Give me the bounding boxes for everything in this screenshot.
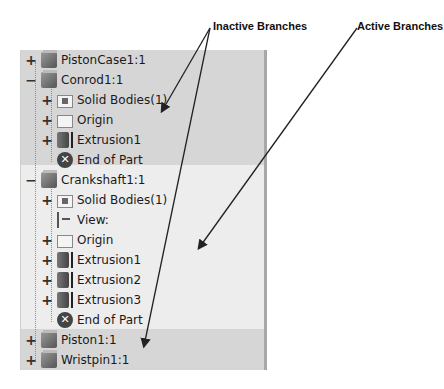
extrusion-icon: [57, 272, 69, 288]
tree-item-solid-bodies[interactable]: + Solid Bodies(1): [41, 190, 167, 210]
part-cube-icon: [41, 352, 57, 368]
tree-item-label: Crankshaft1:1: [61, 173, 145, 187]
tree-item-pistoncase[interactable]: + PistonCase1:1: [25, 50, 146, 70]
extrusion-icon: [57, 252, 69, 268]
expand-icon[interactable]: +: [25, 352, 37, 368]
tree-item-extrusion3[interactable]: + Extrusion3: [41, 290, 141, 310]
tree-item-extrusion1[interactable]: + Extrusion1: [41, 250, 141, 270]
tree-item-conrod[interactable]: − Conrod1:1: [25, 70, 123, 90]
inactive-branches-label: Inactive Branches: [213, 20, 307, 32]
tree-item-label: End of Part: [77, 313, 143, 327]
expand-icon[interactable]: +: [25, 52, 37, 68]
expand-icon[interactable]: +: [25, 332, 37, 348]
expand-icon[interactable]: +: [41, 292, 53, 308]
tree-item-piston[interactable]: + Piston1:1: [25, 330, 117, 350]
end-of-part-icon: ✕: [57, 152, 73, 168]
collapse-icon[interactable]: −: [25, 172, 37, 188]
view-icon: [57, 212, 73, 228]
expand-icon[interactable]: +: [41, 192, 53, 208]
extrusion-icon: [57, 292, 69, 308]
tree-item-label: Solid Bodies(1): [77, 193, 167, 207]
tree-item-label: Piston1:1: [61, 333, 117, 347]
tree-item-label: Extrusion1: [77, 133, 141, 147]
tree-item-label: Solid Bodies(1): [77, 93, 167, 107]
expand-icon[interactable]: +: [41, 232, 53, 248]
expand-icon[interactable]: +: [41, 92, 53, 108]
tree-item-end-of-part[interactable]: ✕ End of Part: [41, 150, 143, 170]
tree-item-origin[interactable]: + Origin: [41, 230, 113, 250]
folder-icon: [57, 235, 73, 248]
tree-item-label: Origin: [77, 233, 113, 247]
solid-bodies-folder-icon: [57, 195, 73, 208]
expand-icon[interactable]: +: [41, 112, 53, 128]
tree-item-label: Extrusion3: [77, 293, 141, 307]
part-cube-icon: [41, 72, 57, 88]
tree-item-label: PistonCase1:1: [61, 53, 146, 67]
tree-item-origin[interactable]: + Origin: [41, 110, 113, 130]
tree-item-view[interactable]: View:: [41, 210, 109, 230]
tree-item-solid-bodies[interactable]: + Solid Bodies(1): [41, 90, 167, 110]
part-cube-icon: [41, 332, 57, 348]
tree-item-end-of-part[interactable]: ✕ End of Part: [41, 310, 143, 330]
tree-item-extrusion2[interactable]: + Extrusion2: [41, 270, 141, 290]
tree-item-label: Wristpin1:1: [61, 353, 129, 367]
collapse-icon[interactable]: −: [25, 72, 37, 88]
tree-item-crankshaft[interactable]: − Crankshaft1:1: [25, 170, 145, 190]
part-cube-icon: [41, 172, 57, 188]
solid-bodies-folder-icon: [57, 95, 73, 108]
tree-item-label: Extrusion1: [77, 253, 141, 267]
expand-icon[interactable]: +: [41, 272, 53, 288]
expand-icon[interactable]: +: [41, 132, 53, 148]
tree-item-label: End of Part: [77, 153, 143, 167]
expand-icon[interactable]: +: [41, 252, 53, 268]
extrusion-icon: [57, 132, 69, 148]
tree-item-label: Extrusion2: [77, 273, 141, 287]
browser-tree-panel: + PistonCase1:1 − Conrod1:1 + Solid Bodi…: [20, 50, 267, 370]
end-of-part-icon: ✕: [57, 312, 73, 328]
tree-item-wristpin[interactable]: + Wristpin1:1: [25, 350, 129, 370]
tree-item-label: Conrod1:1: [61, 73, 123, 87]
tree-item-extrusion1[interactable]: + Extrusion1: [41, 130, 141, 150]
part-cube-icon: [41, 52, 57, 68]
folder-icon: [57, 115, 73, 128]
tree-item-label: Origin: [77, 113, 113, 127]
active-branches-label: Active Branches: [357, 20, 443, 32]
tree-item-label: View:: [77, 213, 109, 227]
tree-guide-line: [35, 62, 36, 362]
